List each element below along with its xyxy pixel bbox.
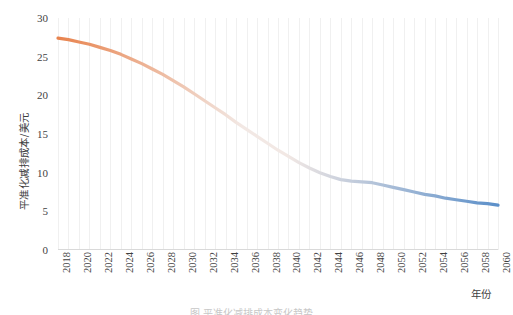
y-axis-tick-label: 0	[43, 245, 49, 256]
x-axis-tick-label: 2036	[251, 252, 262, 273]
gridline	[498, 18, 499, 250]
y-axis-tick-labels: 051015202530	[0, 0, 58, 313]
x-axis-tick-label: 2056	[460, 252, 471, 273]
figure-caption: 图 平准化减排成本变化趋势	[0, 305, 503, 315]
y-axis-tick-label: 10	[37, 167, 48, 178]
x-axis-title: 年份	[471, 286, 491, 301]
x-axis-tick-label: 2026	[146, 252, 157, 273]
x-axis-tick-labels: 2018202020222024202620282030203220342036…	[58, 252, 498, 304]
x-axis-tick-label: 2024	[125, 252, 136, 273]
x-axis-tick-label: 2030	[188, 252, 199, 273]
x-axis-tick-label: 2022	[104, 252, 115, 273]
x-axis-tick-label: 2038	[272, 252, 283, 273]
x-axis-tick-label: 2028	[167, 252, 178, 273]
x-axis-tick-label: 2060	[502, 252, 513, 273]
x-axis-tick-label: 2050	[397, 252, 408, 273]
x-axis-tick-label: 2020	[83, 252, 94, 273]
x-axis-tick-label: 2044	[334, 252, 345, 273]
y-axis-tick-label: 20	[37, 90, 48, 101]
x-axis-tick-label: 2058	[481, 252, 492, 273]
x-axis-tick-label: 2052	[418, 252, 429, 273]
x-axis-tick-label: 2018	[62, 252, 73, 273]
x-axis-tick-label: 2054	[439, 252, 450, 273]
y-axis-tick-label: 15	[37, 129, 48, 140]
x-axis-tick-label: 2042	[313, 252, 324, 273]
x-axis-tick-label: 2040	[292, 252, 303, 273]
x-axis-tick-label: 2032	[209, 252, 220, 273]
y-axis-tick-label: 5	[43, 206, 49, 217]
x-axis-tick-label: 2034	[230, 252, 241, 273]
plot-area	[58, 18, 498, 250]
y-axis-tick-label: 30	[37, 13, 48, 24]
x-axis-tick-label: 2046	[355, 252, 366, 273]
y-axis-tick-label: 25	[37, 51, 48, 62]
series-line-levelized-abatement-cost	[58, 18, 498, 250]
x-axis-tick-label: 2048	[376, 252, 387, 273]
